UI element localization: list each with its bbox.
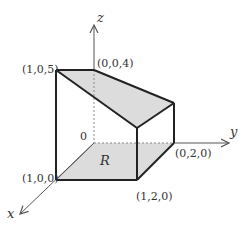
point-label-1-0-5: (1,0,5) xyxy=(22,63,59,76)
point-label-1-2-0: (1,2,0) xyxy=(136,190,173,203)
origin-label: 0 xyxy=(80,130,87,143)
x-axis-label: x xyxy=(7,206,15,221)
point-label-0-2-0: (0,2,0) xyxy=(175,147,212,160)
y-axis-label: y xyxy=(229,124,238,139)
point-label-0-0-4: (0,0,4) xyxy=(97,57,134,70)
region-label: R xyxy=(99,153,110,168)
point-label-1-0-0: (1,0,0) xyxy=(22,172,59,185)
diagram-canvas: z y x 0 R (1,0,5) (0,0,4) (1,0,0) (1,2,0… xyxy=(0,0,249,230)
z-axis-label: z xyxy=(96,10,104,25)
